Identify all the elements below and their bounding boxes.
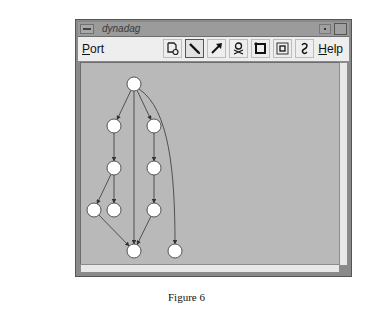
graph-edge[interactable] [137, 90, 151, 119]
graph-node[interactable] [87, 203, 101, 217]
graph-node[interactable] [107, 203, 121, 217]
graph-node[interactable] [127, 77, 141, 91]
graph-node[interactable] [127, 244, 141, 258]
graph-node[interactable] [147, 119, 161, 133]
graph-edge[interactable] [99, 215, 129, 246]
graph-edge[interactable] [97, 174, 111, 203]
graph-edge[interactable] [117, 90, 131, 119]
graph-node[interactable] [107, 161, 121, 175]
graph-node[interactable] [168, 244, 182, 258]
figure-caption: Figure 6 [0, 291, 373, 303]
graph-node[interactable] [147, 203, 161, 217]
graph-node[interactable] [107, 119, 121, 133]
graph-edge[interactable] [137, 216, 151, 244]
graph-node[interactable] [147, 161, 161, 175]
graph-drawing [0, 0, 373, 313]
